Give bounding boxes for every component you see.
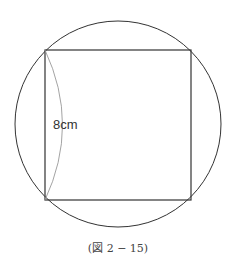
figure-caption: (図 2 − 15)	[88, 242, 148, 255]
side-length-label: 8cm	[53, 117, 78, 132]
figure-canvas: 8cm (図 2 − 15)	[0, 0, 236, 270]
